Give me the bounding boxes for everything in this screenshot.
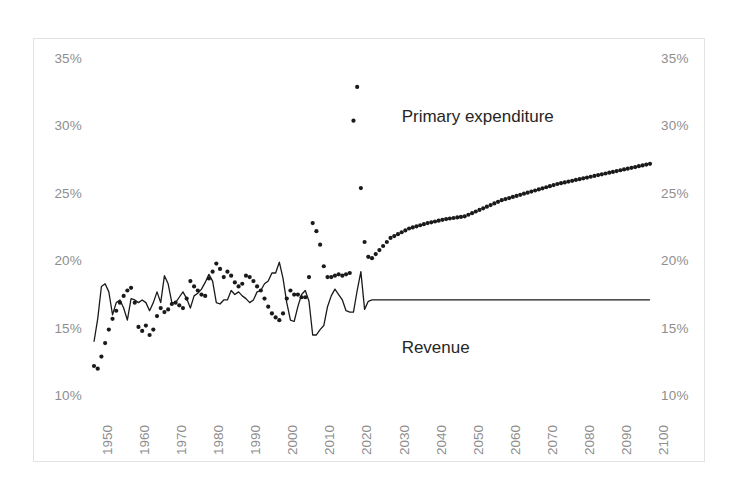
y-axis-left-tick-25: 25% bbox=[38, 186, 82, 201]
x-axis-tick-1970: 1970 bbox=[174, 425, 189, 455]
x-axis-tick-2080: 2080 bbox=[582, 425, 597, 455]
y-axis-right-tick-10: 10% bbox=[661, 388, 705, 403]
x-axis-tick-2100: 2100 bbox=[656, 425, 671, 455]
x-axis-tick-1990: 1990 bbox=[248, 425, 263, 455]
y-axis-right-tick-30: 30% bbox=[661, 118, 705, 133]
y-axis-left-tick-15: 15% bbox=[38, 321, 82, 336]
y-axis-right-tick-15: 15% bbox=[661, 321, 705, 336]
x-axis-tick-1950: 1950 bbox=[100, 425, 115, 455]
x-axis-tick-2050: 2050 bbox=[471, 425, 486, 455]
x-axis-tick-1980: 1980 bbox=[211, 425, 226, 455]
series-label-revenue: Revenue bbox=[402, 338, 470, 358]
y-axis-right-tick-25: 25% bbox=[661, 186, 705, 201]
y-axis-left-tick-20: 20% bbox=[38, 253, 82, 268]
series-label-primary-expenditure: Primary expenditure bbox=[402, 107, 554, 127]
x-axis-tick-2090: 2090 bbox=[619, 425, 634, 455]
y-axis-right-tick-35: 35% bbox=[661, 51, 705, 66]
y-axis-right-tick-20: 20% bbox=[661, 253, 705, 268]
x-axis-tick-2040: 2040 bbox=[434, 425, 449, 455]
y-axis-left-tick-35: 35% bbox=[38, 51, 82, 66]
y-axis-left-tick-30: 30% bbox=[38, 118, 82, 133]
x-axis-tick-2000: 2000 bbox=[285, 425, 300, 455]
x-axis-tick-2010: 2010 bbox=[322, 425, 337, 455]
x-axis-tick-2020: 2020 bbox=[359, 425, 374, 455]
chart-frame bbox=[33, 38, 705, 462]
x-axis-tick-1960: 1960 bbox=[137, 425, 152, 455]
y-axis-left-tick-10: 10% bbox=[38, 388, 82, 403]
x-axis-tick-2060: 2060 bbox=[508, 425, 523, 455]
x-axis-tick-2030: 2030 bbox=[397, 425, 412, 455]
x-axis-tick-2070: 2070 bbox=[545, 425, 560, 455]
